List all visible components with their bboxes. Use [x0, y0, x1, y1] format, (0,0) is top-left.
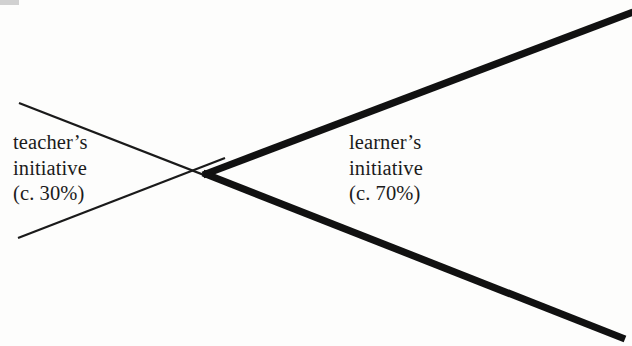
- learner-label-line-3: (c. 70%): [349, 181, 423, 207]
- initiative-wedges-svg: [0, 0, 632, 346]
- teacher-label-line-3: (c. 30%): [13, 181, 88, 207]
- initiative-diagram-figure: teacher’s initiative (c. 30%) learner’s …: [0, 0, 632, 346]
- teacher-label-line-1: teacher’s: [13, 130, 88, 156]
- learner-initiative-label: learner’s initiative (c. 70%): [349, 130, 423, 207]
- learner-label-line-2: initiative: [349, 156, 423, 182]
- learner-label-line-1: learner’s: [349, 130, 423, 156]
- teacher-label-line-2: initiative: [13, 156, 88, 182]
- teacher-initiative-label: teacher’s initiative (c. 30%): [13, 130, 88, 207]
